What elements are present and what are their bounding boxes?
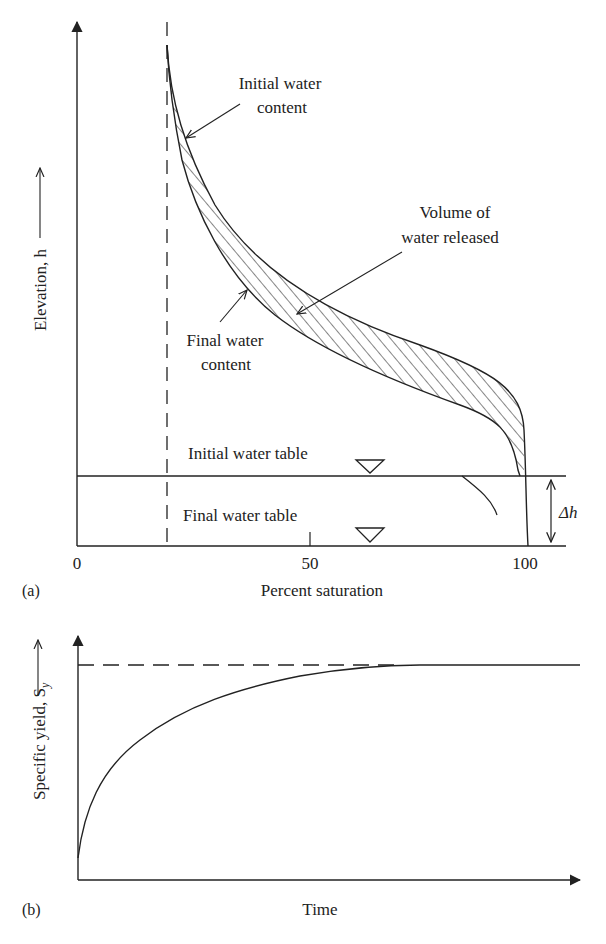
y-axis-label-b: Specific yield, Sy bbox=[30, 682, 52, 800]
volume-arrow bbox=[297, 252, 402, 314]
y-axis-label-b-main: Specific yield, S bbox=[30, 688, 49, 800]
tick-label-50: 50 bbox=[302, 554, 319, 573]
x-axis-label-b: Time bbox=[302, 900, 337, 919]
initial-table-label: Initial water table bbox=[188, 444, 308, 463]
tick-label-0: 0 bbox=[73, 554, 82, 573]
figure: Initial water content Volume of water re… bbox=[0, 0, 606, 944]
initial-content-arrow bbox=[186, 104, 240, 138]
volume-label: Volume of bbox=[420, 203, 491, 222]
final-content-arrow bbox=[220, 290, 247, 322]
initial-water-table-triangle-icon bbox=[356, 460, 384, 473]
initial-content-label-2: content bbox=[257, 98, 307, 117]
final-content-label: Final water bbox=[187, 331, 264, 350]
final-water-table-triangle-icon bbox=[356, 528, 384, 542]
y-axis-label-b-sub: y bbox=[38, 682, 52, 689]
initial-water-content-curve bbox=[167, 45, 520, 476]
panel-tag-a: (a) bbox=[22, 582, 40, 600]
initial-content-label: Initial water bbox=[239, 74, 322, 93]
volume-label-2: water released bbox=[401, 228, 499, 247]
specific-yield-curve bbox=[78, 665, 580, 858]
water-released-region bbox=[167, 45, 524, 470]
y-axis-label-a: Elevation, h bbox=[31, 248, 50, 331]
panel-a: Initial water content Volume of water re… bbox=[22, 22, 577, 600]
delta-h-label: Δh bbox=[558, 503, 577, 522]
y-axis-label-b-group: Specific yield, Sy bbox=[30, 682, 52, 800]
final-table-label: Final water table bbox=[183, 506, 297, 525]
final-water-content-curve bbox=[167, 45, 528, 546]
panel-tag-b: (b) bbox=[22, 901, 41, 919]
panel-b: Time (b) Specific yield, Sy bbox=[22, 636, 580, 919]
final-content-label-2: content bbox=[201, 355, 251, 374]
x-axis-label-a: Percent saturation bbox=[261, 581, 384, 600]
y-axis-label-a-group: Elevation, h bbox=[31, 248, 50, 331]
tick-label-100: 100 bbox=[512, 554, 538, 573]
